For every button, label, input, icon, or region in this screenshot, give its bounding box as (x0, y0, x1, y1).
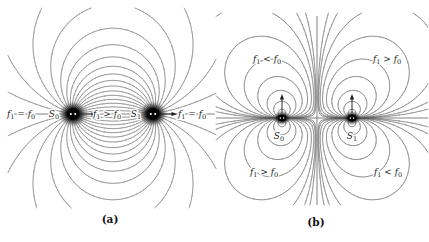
label-a-f-right: f1 = f0 (177, 109, 206, 121)
panel-a-caption: (a) (102, 213, 119, 225)
label-b-s0: S0 (274, 131, 284, 143)
field-line (33, 8, 193, 208)
velocity-arrow-b1-head (350, 94, 354, 100)
source-blob-core (348, 115, 356, 121)
source-dot (150, 113, 152, 115)
panel-a: f1 = f0S0f1 > f0S1f1 = f0 (a) (6, 8, 216, 225)
label-b-lower-right: f1 < f0 (373, 167, 402, 179)
source-dot (154, 113, 156, 115)
source-dot (74, 113, 76, 115)
figure-svg: f1 = f0S0f1 > f0S1f1 = f0 (a) f1 < f0f1 … (0, 0, 429, 242)
label-b-lower-left: f1 > f0 (249, 167, 278, 179)
panel-b-caption: (b) (307, 216, 324, 228)
source-dot (350, 117, 352, 119)
source-dot (353, 117, 355, 119)
source-blob-core (148, 108, 159, 120)
panel-b: f1 < f0f1 > f0f1 > f0f1 < f0S0S1 (b) (216, 13, 428, 228)
label-a-f-mid: f1 > f0 (92, 109, 121, 121)
source-dot (70, 113, 72, 115)
direction-arrow-a1-head (172, 112, 178, 116)
label-b-s1: S1 (347, 131, 357, 143)
velocity-arrow-b0-head (280, 94, 284, 100)
label-a-f-left: f1 = f0 (6, 109, 35, 121)
label-b-upper-right: f1 > f0 (372, 54, 401, 66)
source-dot (280, 117, 282, 119)
panel-a-field-lines (8, 8, 216, 208)
source-blob-core (68, 108, 79, 120)
figure: f1 = f0S0f1 > f0S1f1 = f0 (a) f1 < f0f1 … (0, 0, 429, 242)
panel-a-labels: f1 = f0S0f1 > f0S1f1 = f0 (6, 109, 206, 121)
label-b-upper-left: f1 < f0 (252, 54, 281, 66)
source-blob-core (278, 115, 286, 121)
source-dot (283, 117, 285, 119)
